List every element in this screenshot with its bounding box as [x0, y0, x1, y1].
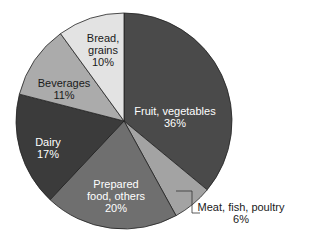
label-prepared-pct: 20%	[87, 202, 145, 214]
label-meat-fish-poultry: Meat, fish, poultry 6%	[198, 201, 285, 225]
label-bread-line2: grains	[87, 44, 119, 56]
label-fruit-name: Fruit, vegetables	[134, 105, 215, 117]
label-dairy-pct: 17%	[35, 148, 61, 160]
label-beverages-pct: 11%	[38, 89, 91, 101]
label-dairy: Dairy 17%	[35, 136, 61, 160]
label-prepared-food: Prepared food, others 20%	[87, 178, 145, 214]
label-bread-line1: Bread,	[87, 32, 119, 44]
label-meat-pct: 6%	[198, 213, 285, 225]
label-beverages-name: Beverages	[38, 77, 91, 89]
label-bread-grains: Bread, grains 10%	[87, 32, 119, 68]
label-beverages: Beverages 11%	[38, 77, 91, 101]
label-bread-pct: 10%	[87, 56, 119, 68]
label-prepared-line1: Prepared	[87, 178, 145, 190]
label-meat-name: Meat, fish, poultry	[198, 201, 285, 213]
label-dairy-name: Dairy	[35, 136, 61, 148]
label-prepared-line2: food, others	[87, 190, 145, 202]
label-fruit-pct: 36%	[134, 117, 215, 129]
label-fruit-vegetables: Fruit, vegetables 36%	[134, 105, 215, 129]
